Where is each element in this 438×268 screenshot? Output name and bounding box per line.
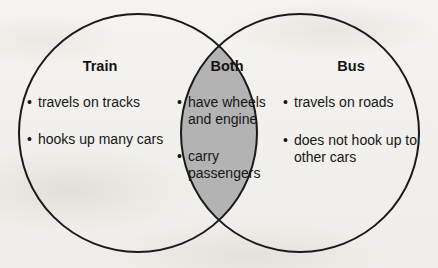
bullet-icon: • (283, 132, 288, 149)
list-item: • carry passengers (177, 148, 281, 182)
bullet-icon: • (27, 94, 32, 111)
list-item: • hooks up many cars (27, 131, 173, 148)
venn-diagram-page: Train • travels on tracks • hooks up man… (0, 0, 438, 268)
venn-right-title: Bus (283, 58, 419, 74)
venn-text-layer: Train • travels on tracks • hooks up man… (0, 0, 438, 268)
bullet-icon: • (177, 148, 182, 165)
venn-left-title: Train (27, 58, 173, 74)
bullet-icon: • (283, 94, 288, 111)
list-item-label: have wheels and engine (188, 94, 266, 127)
bullet-icon: • (177, 94, 182, 111)
venn-right-list: • travels on roads • does not hook up to… (283, 94, 425, 166)
list-item: • have wheels and engine (177, 94, 281, 128)
venn-left-list: • travels on tracks • hooks up many cars (27, 94, 173, 148)
list-item: • travels on tracks (27, 94, 173, 111)
venn-left-section: Train • travels on tracks • hooks up man… (27, 58, 173, 148)
list-item: • does not hook up to other cars (283, 132, 425, 166)
list-item-label: carry passengers (188, 148, 260, 181)
list-item-label: travels on tracks (38, 94, 140, 110)
list-item: • travels on roads (283, 94, 425, 111)
venn-center-list: • have wheels and engine • carry passeng… (177, 94, 281, 182)
bullet-icon: • (27, 131, 32, 148)
venn-right-section: Bus • travels on roads • does not hook u… (283, 58, 425, 166)
venn-center-title: Both (177, 58, 277, 74)
list-item-label: hooks up many cars (38, 131, 163, 147)
list-item-label: travels on roads (294, 94, 394, 110)
venn-center-section: Both • have wheels and engine • carry pa… (177, 58, 281, 182)
list-item-label: does not hook up to other cars (294, 132, 417, 165)
